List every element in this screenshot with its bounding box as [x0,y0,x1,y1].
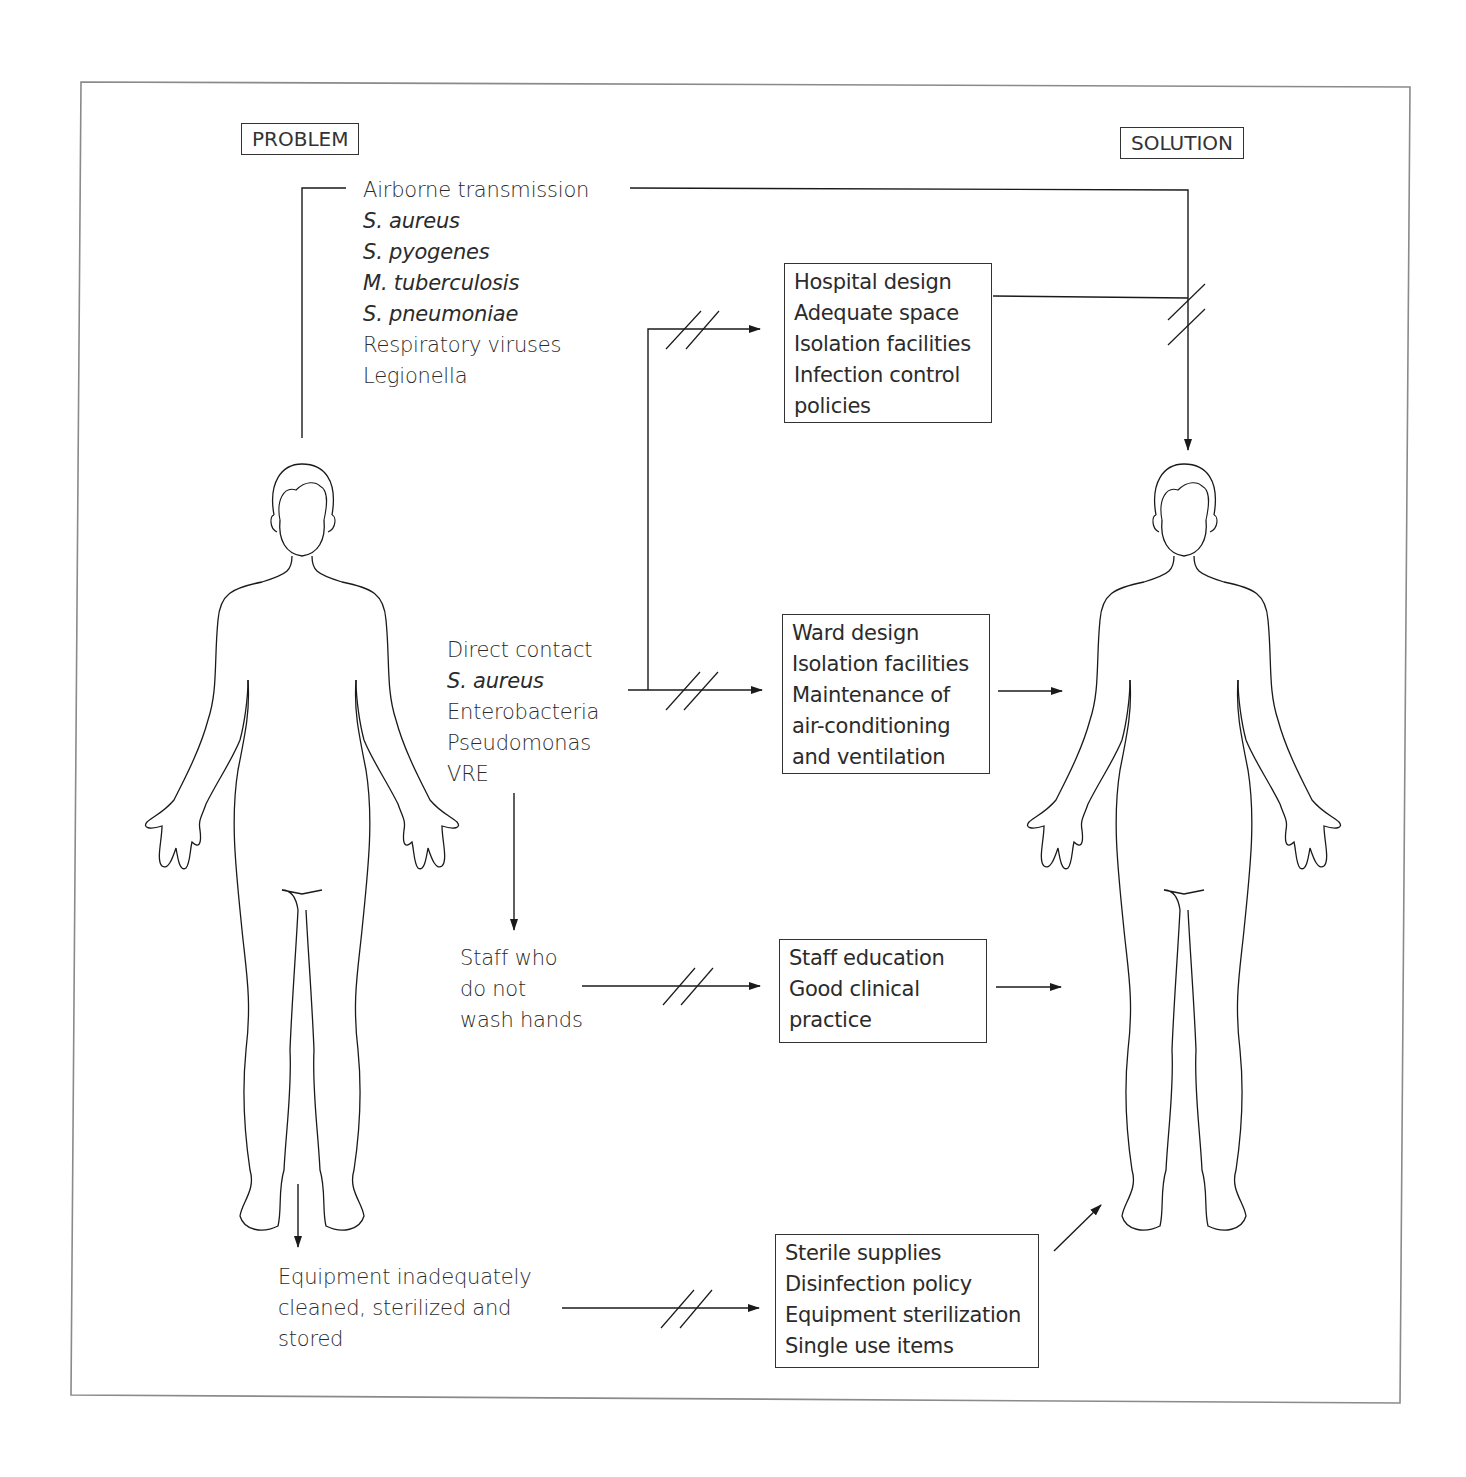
organism: Enterobacteria [447,697,599,728]
direct-contact-title: Direct contact [447,635,599,666]
solution-line: Sterile supplies [785,1238,1029,1269]
staff-problem-line: Staff who [460,943,583,974]
solution-line: policies [794,391,982,422]
solution-line: Ward design [792,618,980,649]
sterile-to-solution-arrow [1054,1205,1101,1251]
hospital-design-solution-box: Hospital design Adequate space Isolation… [784,263,992,423]
staff-problem: Staff who do not wash hands [460,943,583,1036]
human-figure-solution [1027,464,1340,1230]
direct-contact-problem-list: Direct contact S. aureus Enterobacteria … [447,635,599,790]
solution-line: practice [789,1005,977,1036]
solution-line: Equipment sterilization [785,1300,1029,1331]
solution-line: Maintenance of [792,680,980,711]
organism: Legionella [363,361,589,392]
staff-education-solution-box: Staff education Good clinical practice [779,939,987,1043]
organism: Respiratory viruses [363,330,589,361]
ward-design-solution-box: Ward design Isolation facilities Mainten… [782,614,990,774]
staff-problem-line: do not [460,974,583,1005]
organism: Pseudomonas [447,728,599,759]
solution-line: Isolation facilities [794,329,982,360]
solution-line: Isolation facilities [792,649,980,680]
organism: S. aureus [447,666,599,697]
organism: S. aureus [363,206,589,237]
solution-line: Infection control [794,360,982,391]
solution-line: Disinfection policy [785,1269,1029,1300]
solution-line: Single use items [785,1331,1029,1362]
organism: VRE [447,759,599,790]
direct-contact-to-hospital-arrow [648,329,760,690]
solution-line: air-conditioning [792,711,980,742]
solution-line: Hospital design [794,267,982,298]
outer-frame [71,82,1410,1403]
diagram-canvas [0,0,1466,1477]
organism: M. tuberculosis [363,268,589,299]
equipment-problem-line: stored [278,1324,531,1355]
solution-line: Good clinical [789,974,977,1005]
equipment-problem-line: Equipment inadequately [278,1262,531,1293]
human-figure-problem [145,464,458,1230]
airborne-title: Airborne transmission [363,175,589,206]
solution-header: SOLUTION [1120,127,1244,159]
equipment-problem: Equipment inadequately cleaned, steriliz… [278,1262,531,1355]
equipment-problem-line: cleaned, sterilized and [278,1293,531,1324]
airborne-bracket-line [302,188,346,438]
hospital-box-connector [993,296,1188,298]
problem-header: PROBLEM [241,123,359,155]
solution-line: and ventilation [792,742,980,773]
organism: S. pneumoniae [363,299,589,330]
airborne-problem-list: Airborne transmission S. aureus S. pyoge… [363,175,589,392]
sterile-supplies-solution-box: Sterile supplies Disinfection policy Equ… [775,1234,1039,1368]
staff-problem-line: wash hands [460,1005,583,1036]
solution-line: Staff education [789,943,977,974]
organism: S. pyogenes [363,237,589,268]
solution-line: Adequate space [794,298,982,329]
